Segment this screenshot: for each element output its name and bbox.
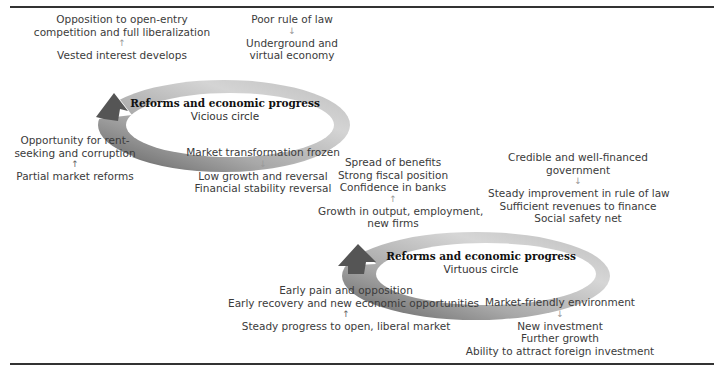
vicious-top-right: Poor rule of law ↓ Underground and virtu… [232,13,352,62]
virtuous-top-left: Spread of benefits Strong fiscal positio… [318,156,468,230]
up-arrow-icon: ↑ [10,159,140,170]
text-line: Spread of benefits [318,156,468,169]
up-arrow-icon: ↑ [318,194,468,205]
text-line: Growth in output, employment, [318,205,468,218]
text-line: Opportunity for rent- [10,134,140,147]
vicious-bottom-left: Opportunity for rent- seeking and corrup… [10,134,140,183]
text-line: Social safety net [488,212,668,225]
down-arrow-icon: ↓ [460,309,660,320]
virtuous-circle-title: Reforms and economic progress [386,250,576,263]
text-line: Further growth [460,332,660,345]
up-arrow-icon: ↑ [228,309,464,320]
down-arrow-icon: ↓ [232,26,352,37]
vicious-circle-subtitle: Vicious circle [130,110,320,123]
vicious-circle-label: Reforms and economic progress Vicious ci… [130,97,320,123]
text-line: Strong fiscal position [318,169,468,182]
text-line: Sufficient revenues to finance [488,200,668,213]
text-line: Steady improvement in rule of law [488,187,668,200]
text-line: virtual economy [232,49,352,62]
text-line: Steady progress to open, liberal market [228,320,464,333]
text-line: Underground and [232,37,352,50]
top-rule [10,6,714,8]
virtuous-circle-label: Reforms and economic progress Virtuous c… [386,250,576,276]
text-line: Opposition to open-entry [22,13,222,26]
text-line: seeking and corruption [10,147,140,160]
vicious-circle-title: Reforms and economic progress [130,97,320,110]
virtuous-bottom-left: Early pain and opposition Early recovery… [228,284,464,333]
text-line: Early pain and opposition [228,284,464,297]
up-arrow-icon: ↑ [22,38,222,49]
text-line: government [488,164,668,177]
bottom-rule [10,363,714,365]
text-line: competition and full liberalization [22,26,222,39]
text-line: Early recovery and new economic opportun… [228,297,464,310]
virtuous-bottom-right: Market-friendly environment ↓ New invest… [460,296,660,357]
text-line: Credible and well-financed [488,151,668,164]
virtuous-circle-subtitle: Virtuous circle [386,263,576,276]
text-line: Poor rule of law [232,13,352,26]
text-line: Partial market reforms [10,170,140,183]
virtuous-top-right: Credible and well-financed government ↓ … [488,151,668,225]
text-line: Confidence in banks [318,181,468,194]
text-line: Market-friendly environment [460,296,660,309]
down-arrow-icon: ↓ [488,176,668,187]
vicious-top-left: Opposition to open-entry competition and… [22,13,222,62]
text-line: new firms [318,217,468,230]
text-line: Vested interest develops [22,49,222,62]
text-line: New investment [460,320,660,333]
text-line: Ability to attract foreign investment [460,345,660,358]
